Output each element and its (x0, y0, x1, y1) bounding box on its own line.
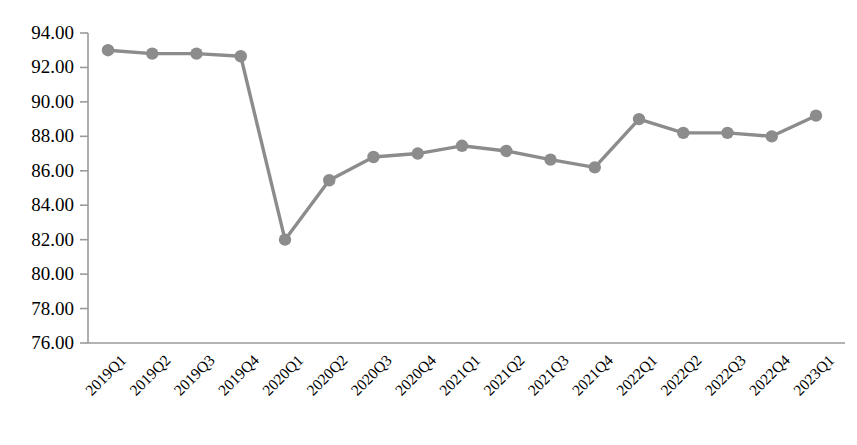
data-point-marker (633, 113, 645, 125)
y-axis-tick-label: 92.00 (31, 57, 74, 76)
y-axis-tick-label: 82.00 (31, 230, 74, 249)
data-point-marker (810, 109, 822, 121)
data-point-marker (456, 140, 468, 152)
data-point-marker (190, 47, 202, 59)
data-point-marker (235, 50, 247, 62)
line-chart: 94.0092.0090.0088.0086.0084.0082.0080.00… (0, 0, 857, 445)
data-markers (102, 44, 822, 246)
data-point-marker (766, 130, 778, 142)
data-point-marker (589, 161, 601, 173)
y-axis-ticks (80, 33, 88, 343)
data-point-marker (412, 147, 424, 159)
y-axis-tick-label: 84.00 (31, 195, 74, 214)
data-point-marker (500, 145, 512, 157)
data-point-marker (544, 153, 556, 165)
y-axis-tick-label: 78.00 (31, 299, 74, 318)
data-point-marker (677, 127, 689, 139)
y-axis-tick-label: 88.00 (31, 126, 74, 145)
y-axis-tick-label: 76.00 (31, 333, 74, 352)
y-axis-tick-label: 86.00 (31, 161, 74, 180)
data-point-marker (102, 44, 114, 56)
data-point-marker (323, 174, 335, 186)
data-point-marker (146, 47, 158, 59)
y-axis-tick-label: 80.00 (31, 264, 74, 283)
data-point-marker (279, 233, 291, 245)
data-point-marker (721, 127, 733, 139)
y-axis-tick-label: 90.00 (31, 92, 74, 111)
y-axis-tick-label: 94.00 (31, 23, 74, 42)
data-point-marker (367, 151, 379, 163)
